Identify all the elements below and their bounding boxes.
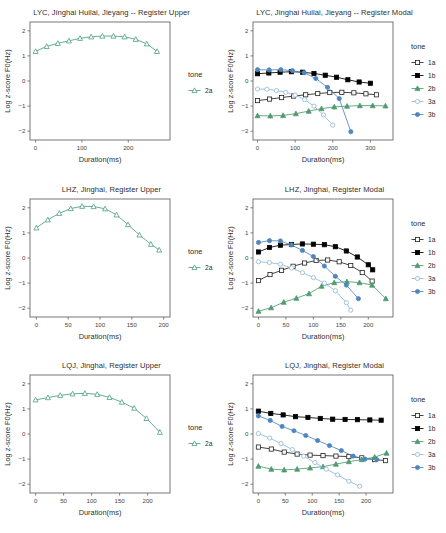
svg-text:Log z-score F0(Hz): Log z-score F0(Hz) — [226, 226, 235, 289]
chart-panel: LHZ, Jinghai, Register Upper−2−101205010… — [0, 177, 223, 353]
legend: tone1a1b2b3a3b — [411, 219, 435, 298]
legend-label: 2a — [205, 87, 212, 94]
legend-item[interactable]: 1a — [411, 56, 435, 69]
legend-label: 2b — [428, 262, 435, 269]
legend-marker-open-square-icon — [411, 411, 424, 420]
svg-text:0: 0 — [245, 430, 249, 437]
svg-text:1: 1 — [245, 52, 249, 59]
legend-item[interactable]: 1a — [411, 233, 435, 246]
chart-panel: LYC, Jinghai Huilai, Jieyang -- Register… — [223, 0, 446, 177]
legend-label: 3b — [428, 111, 435, 118]
legend-item[interactable]: 3a — [411, 272, 435, 285]
svg-text:−2: −2 — [242, 480, 250, 487]
legend-marker-open-triangle-icon — [188, 439, 201, 448]
legend-item[interactable]: 1a — [411, 409, 435, 422]
chart-title: LQJ, Jinghai, Register Upper — [0, 361, 257, 370]
legend-marker-open-triangle-icon — [188, 263, 201, 272]
svg-text:0: 0 — [245, 77, 249, 84]
svg-text:0: 0 — [22, 430, 26, 437]
legend-title: tone — [411, 219, 435, 228]
legend-title: tone — [411, 42, 435, 51]
legend-title: tone — [188, 423, 212, 432]
legend-item[interactable]: 1b — [411, 69, 435, 82]
svg-text:2: 2 — [22, 204, 26, 211]
svg-text:200: 200 — [123, 144, 134, 151]
legend-item[interactable]: 3a — [411, 95, 435, 108]
svg-text:−1: −1 — [242, 455, 250, 462]
svg-text:50: 50 — [65, 321, 72, 328]
legend-label: 3b — [428, 464, 435, 471]
svg-text:0: 0 — [245, 254, 249, 261]
legend-label: 3a — [428, 451, 435, 458]
series-2a — [33, 391, 162, 435]
legend-item[interactable]: 2a — [188, 84, 212, 97]
svg-text:Duration(ms): Duration(ms) — [79, 332, 122, 341]
legend: tone2a — [188, 70, 212, 97]
legend-label: 1b — [428, 425, 435, 432]
svg-text:0: 0 — [257, 497, 261, 504]
legend-marker-filled-square-icon — [411, 248, 424, 257]
figure-panel-grid: LYC, Jinghai Huilai, Jieyang -- Register… — [0, 0, 446, 533]
series-2a — [34, 204, 162, 252]
legend-marker-filled-triangle-icon — [411, 84, 424, 93]
svg-text:0: 0 — [22, 254, 26, 261]
legend: tone1a1b2b3a3b — [411, 395, 435, 474]
legend-marker-open-square-icon — [411, 58, 424, 67]
svg-text:Duration(ms): Duration(ms) — [79, 155, 122, 164]
chart-panel: LQJ, Jinghai, Register Modal−2−101205010… — [223, 353, 446, 533]
svg-text:Log z-score F0(Hz): Log z-score F0(Hz) — [226, 49, 235, 112]
legend-item[interactable]: 3b — [411, 461, 435, 474]
svg-text:50: 50 — [282, 497, 289, 504]
svg-text:200: 200 — [159, 321, 170, 328]
svg-text:Log z-score F0(Hz): Log z-score F0(Hz) — [226, 402, 235, 465]
chart-title: LHZ, Jinghai, Register Upper — [0, 185, 257, 194]
plot-area: −2−1012050100150200Duration(ms)Log z-sco… — [0, 371, 234, 531]
legend-marker-filled-square-icon — [411, 71, 424, 80]
legend-label: 2b — [428, 85, 435, 92]
svg-text:Log z-score F0(Hz): Log z-score F0(Hz) — [3, 226, 12, 289]
svg-text:300: 300 — [365, 144, 376, 151]
plot-area: −2−1012050100150200Duration(ms)Log z-sco… — [0, 195, 234, 355]
svg-text:−1: −1 — [19, 102, 27, 109]
svg-text:Log z-score F0(Hz): Log z-score F0(Hz) — [3, 402, 12, 465]
series-3b — [256, 414, 379, 462]
legend-title: tone — [188, 247, 212, 256]
legend-marker-filled-triangle-icon — [411, 261, 424, 270]
svg-text:0: 0 — [257, 321, 261, 328]
series-1a — [256, 445, 387, 463]
svg-text:0: 0 — [256, 144, 260, 151]
svg-text:−1: −1 — [242, 102, 250, 109]
svg-text:−2: −2 — [242, 304, 250, 311]
svg-text:Duration(ms): Duration(ms) — [302, 508, 345, 517]
legend-label: 3b — [428, 288, 435, 295]
svg-text:2: 2 — [22, 380, 26, 387]
svg-text:Duration(ms): Duration(ms) — [79, 508, 122, 517]
legend-item[interactable]: 2a — [188, 261, 212, 274]
legend: tone1a1b2b3a3b — [411, 42, 435, 121]
series-2a — [33, 33, 159, 53]
svg-text:2: 2 — [22, 27, 26, 34]
series-1a — [255, 90, 378, 102]
legend-item[interactable]: 2a — [188, 437, 212, 450]
svg-text:150: 150 — [336, 321, 347, 328]
legend-marker-open-circle-icon — [411, 97, 424, 106]
legend-item[interactable]: 2b — [411, 435, 435, 448]
svg-text:1: 1 — [22, 405, 26, 412]
legend-item[interactable]: 3b — [411, 108, 435, 121]
legend-item[interactable]: 3b — [411, 285, 435, 298]
legend-label: 1a — [428, 59, 435, 66]
legend-label: 2b — [428, 438, 435, 445]
plot-area: −2−1012050100150200Duration(ms)Log z-sco… — [223, 371, 446, 531]
svg-text:200: 200 — [361, 497, 372, 504]
legend-item[interactable]: 2b — [411, 259, 435, 272]
svg-text:100: 100 — [87, 497, 98, 504]
svg-text:50: 50 — [60, 497, 67, 504]
legend-item[interactable]: 3a — [411, 448, 435, 461]
legend-item[interactable]: 1b — [411, 246, 435, 259]
chart-panel: LQJ, Jinghai, Register Upper−2−101205010… — [0, 353, 223, 533]
legend-title: tone — [411, 395, 435, 404]
legend-marker-filled-circle-icon — [411, 110, 424, 119]
svg-text:0: 0 — [34, 144, 38, 151]
legend-item[interactable]: 2b — [411, 82, 435, 95]
legend-item[interactable]: 1b — [411, 422, 435, 435]
